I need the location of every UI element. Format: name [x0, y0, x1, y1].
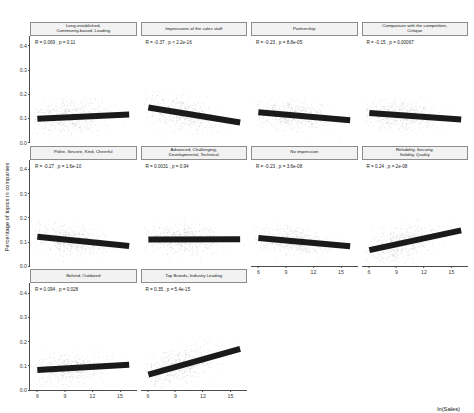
correlation-annotation: R = 0.35 , p = 5.4e-15: [146, 287, 191, 292]
y-tick-mark: [28, 341, 30, 342]
scatter-plot-area: [362, 160, 469, 267]
y-tick-label: 0.3: [20, 67, 27, 73]
scatter-panel: R = -0.15 , p = 0.00067: [362, 36, 469, 143]
regression-line: [369, 113, 461, 119]
correlation-annotation: R = -0.23 , p = 3.6e-08: [256, 164, 302, 169]
x-tick-label: 6: [257, 269, 260, 275]
y-axis-tick: 0.0: [20, 387, 30, 393]
scatter-panel: R = -0.27 , p = 1.6e-10: [30, 160, 137, 267]
y-tick-mark: [28, 193, 30, 194]
x-axis-tick: 6: [257, 266, 260, 275]
x-tick-label: 6: [36, 393, 39, 399]
x-axis-tick: 12: [311, 266, 317, 275]
scatter-panel: R = 0.094 , p = 0.028: [30, 283, 137, 390]
y-tick-mark: [28, 317, 30, 318]
scatter-plot-area: [30, 160, 137, 267]
x-axis-tick: 9: [174, 390, 177, 399]
x-tick-label: 9: [174, 393, 177, 399]
regression-line: [369, 230, 461, 250]
scatter-panel: R = 0.24 , p = 2e-08: [362, 160, 469, 267]
scatter-plot-area: [251, 36, 358, 143]
y-tick-label: 0.3: [20, 314, 27, 320]
correlation-annotation: R = 0.0031 , p = 0.94: [146, 164, 189, 169]
y-tick-mark: [28, 293, 30, 294]
y-axis-tick: 0.4: [20, 43, 30, 49]
scatter-panel: R = -0.23 , p = 8.8e-05: [251, 36, 358, 143]
x-axis: 691215: [251, 266, 358, 278]
y-axis-tick: 0.3: [20, 314, 30, 320]
facet-panel: Long-established,Community-based, Leadin…: [30, 22, 137, 143]
y-axis: 0.00.10.20.30.4: [0, 283, 30, 390]
facet-strip-label: Polite, Sincere, Kind, Cheerful: [30, 146, 137, 160]
x-axis-tick: 15: [449, 266, 455, 275]
y-tick-mark: [28, 365, 30, 366]
scatter-plot-area: [141, 160, 248, 267]
x-axis: 691215: [141, 390, 248, 402]
x-axis: 691215: [362, 266, 469, 278]
y-tick-mark: [28, 70, 30, 71]
y-axis-tick: 0.1: [20, 115, 30, 121]
y-tick-mark: [28, 142, 30, 143]
y-tick-label: 0.2: [20, 215, 27, 221]
y-tick-label: 0.0: [20, 387, 27, 393]
correlation-annotation: R = 0.094 , p = 0.028: [35, 287, 78, 292]
scatter-plot-area: [251, 160, 358, 267]
facet-panel: Behind, OutdatedR = 0.094 , p = 0.028: [30, 269, 137, 390]
x-tick-label: 15: [338, 269, 344, 275]
y-axis-tick: 0.2: [20, 215, 30, 221]
scatter-plot-area: [30, 283, 137, 390]
x-tick-label: 6: [146, 393, 149, 399]
x-axis-tick: 12: [200, 390, 206, 399]
x-axis-title: ln(Sales): [0, 406, 474, 412]
y-tick-label: 0.1: [20, 363, 27, 369]
y-tick-mark: [28, 242, 30, 243]
y-tick-label: 0.2: [20, 339, 27, 345]
x-tick-label: 12: [90, 393, 96, 399]
y-tick-mark: [28, 217, 30, 218]
y-tick-mark: [28, 94, 30, 95]
x-axis-tick: 12: [90, 390, 96, 399]
y-tick-label: 0.3: [20, 191, 27, 197]
x-axis-tick: 15: [338, 266, 344, 275]
scatter-plot-area: [30, 36, 137, 143]
facet-strip-label: No impression: [251, 146, 358, 160]
regression-line: [37, 115, 129, 119]
x-axis-tick: 6: [146, 390, 149, 399]
x-axis-tick: 9: [63, 390, 66, 399]
x-axis-tick: 6: [367, 266, 370, 275]
regression-line: [37, 365, 129, 370]
y-axis-tick: 0.2: [20, 339, 30, 345]
regression-line: [148, 349, 240, 375]
y-tick-label: 0.0: [20, 263, 27, 269]
facet-strip-label: Partnership: [251, 22, 358, 36]
facet-strip-label: Long-established,Community-based, Leadin…: [30, 22, 137, 36]
correlation-annotation: R = 0.069 , p = 0.11: [35, 40, 75, 45]
x-tick-label: 15: [117, 393, 123, 399]
y-tick-label: 0.1: [20, 115, 27, 121]
facet-strip-label: Reliability, Security,Solidity, Quality: [362, 146, 469, 160]
y-tick-label: 0.4: [20, 290, 27, 296]
y-tick-mark: [28, 45, 30, 46]
x-tick-label: 9: [395, 269, 398, 275]
correlation-annotation: R = -0.23 , p = 8.8e-05: [256, 40, 302, 45]
x-tick-label: 12: [421, 269, 427, 275]
y-tick-label: 0.0: [20, 140, 27, 146]
x-tick-label: 9: [284, 269, 287, 275]
y-axis-spine: [29, 160, 30, 267]
facet-strip-label: Advanced, Challenging,Developmental, Tec…: [141, 146, 248, 160]
y-axis-spine: [29, 283, 30, 390]
x-axis-tick: 6: [36, 390, 39, 399]
x-tick-label: 15: [449, 269, 455, 275]
facet-panel: No impressionR = -0.23 , p = 3.6e-08: [251, 146, 358, 267]
correlation-annotation: R = 0.24 , p = 2e-08: [367, 164, 408, 169]
scatter-plot-area: [141, 36, 248, 143]
facet-panel: Impressions of the sales staffR = -0.37 …: [141, 22, 248, 143]
scatter-panel: R = -0.23 , p = 3.6e-08: [251, 160, 358, 267]
scatter-panel: R = 0.069 , p = 0.11: [30, 36, 137, 143]
correlation-annotation: R = -0.15 , p = 0.00067: [367, 40, 414, 45]
facet-strip-label: Behind, Outdated: [30, 269, 137, 283]
scatter-panel: R = 0.0031 , p = 0.94: [141, 160, 248, 267]
facet-panel: Reliability, Security,Solidity, QualityR…: [362, 146, 469, 267]
scatter-panel: R = -0.37 , p < 2.2e-16: [141, 36, 248, 143]
y-axis-tick: 0.0: [20, 140, 30, 146]
